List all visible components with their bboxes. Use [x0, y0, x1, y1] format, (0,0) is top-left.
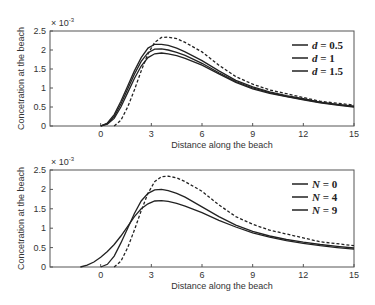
- y-tick-label: 1.5: [33, 64, 46, 74]
- multiplier-base: × 10: [51, 157, 69, 167]
- figure: 0369121500.511.522.5× 10-3Distance along…: [0, 0, 375, 305]
- x-tick-label: 6: [199, 129, 204, 139]
- x-tick-label: 3: [149, 270, 154, 280]
- y-axis-multiplier: × 10-3: [51, 17, 75, 28]
- y-tick-label: 0.5: [33, 243, 46, 253]
- legend-entry: N = 4: [311, 191, 338, 203]
- x-tick-label: 12: [298, 129, 308, 139]
- y-tick-label: 2.5: [33, 165, 46, 175]
- legend-entry: N = 9: [311, 204, 338, 216]
- bottom-chart-panel: 0369121500.511.522.5× 10-3Distance along…: [16, 156, 359, 291]
- plot-area-frame: [50, 31, 354, 126]
- x-tick-label: 6: [199, 270, 204, 280]
- y-tick-label: 0: [41, 262, 46, 272]
- y-tick-label: 1: [41, 223, 46, 233]
- legend-value: = 4: [320, 191, 338, 203]
- plot-area-frame: [50, 170, 354, 267]
- legend-entry: d = 0.5: [312, 39, 344, 51]
- legend-value: = 1.5: [318, 65, 344, 77]
- y-axis-multiplier: × 10-3: [51, 156, 75, 167]
- x-axis-label: Distance along the beach: [171, 281, 273, 291]
- legend-entry: N = 0: [311, 178, 338, 190]
- y-axis-label: Concetration at the beach: [16, 27, 26, 130]
- x-axis-label: Distance along the beach: [171, 140, 273, 150]
- legend-entry: d = 1.5: [312, 65, 344, 77]
- legend-value: = 0: [320, 178, 338, 190]
- multiplier-base: × 10: [51, 18, 69, 28]
- y-tick-label: 2.5: [33, 26, 46, 36]
- multiplier-exponent: -3: [69, 17, 75, 23]
- legend-value: = 0.5: [318, 39, 344, 51]
- x-tick-label: 15: [349, 129, 359, 139]
- y-tick-label: 0.5: [33, 102, 46, 112]
- y-tick-label: 0: [41, 121, 46, 131]
- legend-value: = 9: [320, 204, 338, 216]
- x-tick-label: 3: [149, 129, 154, 139]
- y-tick-label: 2: [41, 45, 46, 55]
- multiplier-exponent: -3: [69, 156, 75, 162]
- x-tick-label: 12: [298, 270, 308, 280]
- y-tick-label: 1: [41, 83, 46, 93]
- x-tick-label: 9: [250, 270, 255, 280]
- x-tick-label: 15: [349, 270, 359, 280]
- y-axis-label: Concetration at the beach: [16, 167, 26, 270]
- x-tick-label: 0: [98, 270, 103, 280]
- x-tick-label: 9: [250, 129, 255, 139]
- legend-entry: d = 1: [312, 52, 335, 64]
- y-tick-label: 2: [41, 184, 46, 194]
- y-tick-label: 1.5: [33, 204, 46, 214]
- top-chart-panel: 0369121500.511.522.5× 10-3Distance along…: [16, 17, 359, 150]
- legend-value: = 1: [318, 52, 335, 64]
- x-tick-label: 0: [98, 129, 103, 139]
